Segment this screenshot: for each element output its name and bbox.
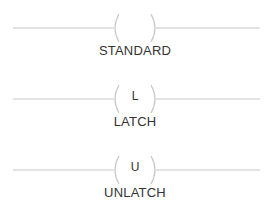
coil-label: LATCH [0, 114, 270, 129]
coil-label: STANDARD [0, 43, 270, 58]
coil-latch: L LATCH [0, 79, 270, 139]
coil-label: UNLATCH [0, 185, 270, 200]
coil-letter: U [0, 160, 270, 174]
coil-letter: L [0, 89, 270, 103]
coil-standard-symbol [0, 8, 270, 48]
coil-standard: STANDARD [0, 8, 270, 68]
left-paren [115, 14, 119, 42]
coil-unlatch: U UNLATCH [0, 150, 270, 210]
right-paren [151, 14, 155, 42]
